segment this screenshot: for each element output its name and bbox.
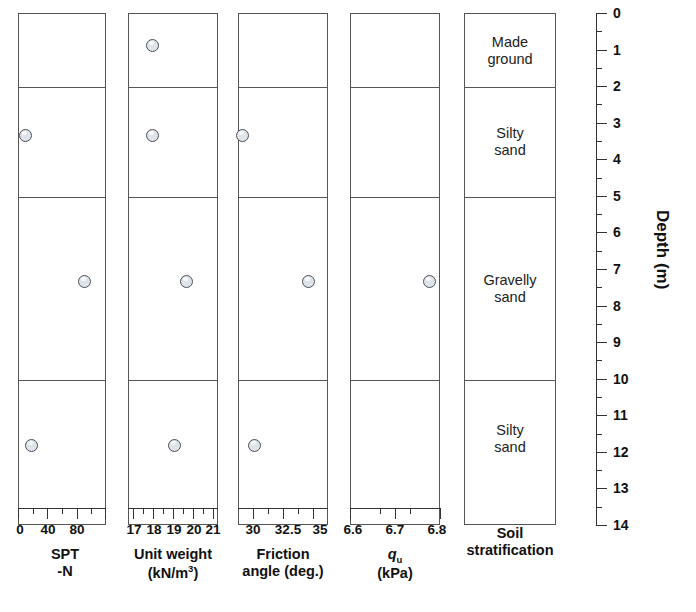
data-point [423,275,436,288]
panel-spt [18,13,106,525]
uw-tick-label-20: 20 [186,522,201,537]
data-point [168,439,181,452]
spt-tick-label-80: 80 [69,522,84,537]
depth-tick-2.5 [596,104,602,105]
depth-tick-9.5 [596,360,602,361]
depth-tick-10 [596,379,607,380]
borehole-log-figure: 0 40 80 SPT -N 17 18 19 20 21 Unit weigh… [0,0,696,612]
spt-tick-60 [62,508,63,514]
uw-tick-label-19: 19 [166,522,181,537]
data-point [146,39,159,52]
data-point [19,129,32,142]
depth-tick-13 [596,488,607,489]
panel-friction-angle [238,13,328,525]
depth-tick-5.5 [596,214,602,215]
data-point [248,439,261,452]
depth-tick-label-2: 2 [613,78,621,94]
data-point [180,275,193,288]
strat-label-line2: ground [465,51,555,68]
fa-tick-35 [313,508,314,519]
strat-boundary-2m [128,87,218,88]
uw-tick-18.5 [163,508,164,514]
qu-tick-6.65 [380,508,381,514]
depth-tick-label-5: 5 [613,188,621,204]
depth-tick-12.5 [596,470,602,471]
panel-unit-weight [128,13,218,525]
depth-tick-label-14: 14 [613,517,629,533]
fa-tick-32.5 [283,508,284,519]
strat-label-line1: Made [465,34,555,51]
strat-boundary-10m [18,380,106,381]
spt-tick-20 [33,508,34,514]
qu-tick-label-6.6: 6.6 [344,522,363,537]
friction-angle-axis-caption: Friction angle (deg.) [218,546,348,580]
uw-tick-17 [133,508,134,519]
depth-tick-7 [596,269,607,270]
depth-tick-3.5 [596,141,602,142]
depth-axis-title: Depth (m) [652,210,672,289]
strat-boundary-5m [128,197,218,198]
strat-layer-label-made-ground: Made ground [465,34,555,69]
depth-tick-label-8: 8 [613,298,621,314]
spt-tick-80 [77,508,78,519]
panel-soil-stratification: Made ground Silty sand Gravelly sand Sil… [464,13,556,525]
qu-tick-6.7 [395,508,396,519]
depth-tick-4.5 [596,178,602,179]
depth-tick-label-3: 3 [613,115,621,131]
fa-tick-label-30: 30 [245,522,260,537]
depth-tick-label-1: 1 [613,42,621,58]
strat-boundary-10m [238,380,328,381]
depth-tick-0.5 [596,31,602,32]
qu-tick-label-6.7: 6.7 [386,522,405,537]
depth-tick-3 [596,123,607,124]
depth-tick-label-11: 11 [613,407,628,423]
depth-tick-11 [596,415,607,416]
uw-tick-label-17: 17 [126,522,141,537]
depth-tick-14 [596,525,607,526]
fa-tick-30 [253,508,254,519]
depth-tick-9 [596,342,607,343]
strat-boundary-10m [128,380,218,381]
data-point [25,439,38,452]
spt-tick-100 [91,508,92,514]
data-point [146,129,159,142]
soil-stratification-caption: Soil stratification [440,525,580,559]
depth-tick-1.5 [596,68,602,69]
strat-label-line2: sand [465,289,555,306]
strat-caption-line1: Soil [440,525,580,542]
uw-tick-19 [173,508,174,519]
data-point [236,129,249,142]
depth-tick-13.5 [596,507,602,508]
fa-tick-33.75 [298,508,299,514]
qu-tick-6.75 [410,508,411,514]
uw-tick-label-18: 18 [146,522,161,537]
fa-tick-label-32.5: 32.5 [275,522,301,537]
strat-layer-label-silty-sand-upper: Silty sand [465,125,555,160]
depth-tick-label-6: 6 [613,224,621,240]
spt-tick-label-0: 0 [16,522,24,537]
depth-tick-11.5 [596,434,602,435]
strat-boundary-2m [238,87,328,88]
depth-tick-7.5 [596,287,602,288]
uw-tick-17.5 [143,508,144,514]
spt-tick-120 [105,508,106,519]
spt-tick-40 [47,508,48,519]
depth-tick-2 [596,86,607,87]
depth-tick-10.5 [596,397,602,398]
depth-tick-0 [596,13,607,14]
uw-tick-20 [193,508,194,519]
strat-label-line1: Gravelly [465,272,555,289]
fa-tick-label-35: 35 [312,522,327,537]
strat-boundary-2m [18,87,106,88]
strat-label-line1: Silty [465,125,555,142]
strat-layer-label-gravelly-sand: Gravelly sand [465,272,555,307]
fa-caption-line1: Friction [218,546,348,563]
depth-tick-12 [596,452,607,453]
strat-boundary-5m [18,197,106,198]
strat-label-line1: Silty [465,422,555,439]
strat-boundary-2m [464,87,556,88]
depth-tick-4 [596,159,607,160]
strat-boundary-10m [350,380,440,381]
strat-layer-label-silty-sand-lower: Silty sand [465,422,555,457]
strat-boundary-10m [464,380,556,381]
